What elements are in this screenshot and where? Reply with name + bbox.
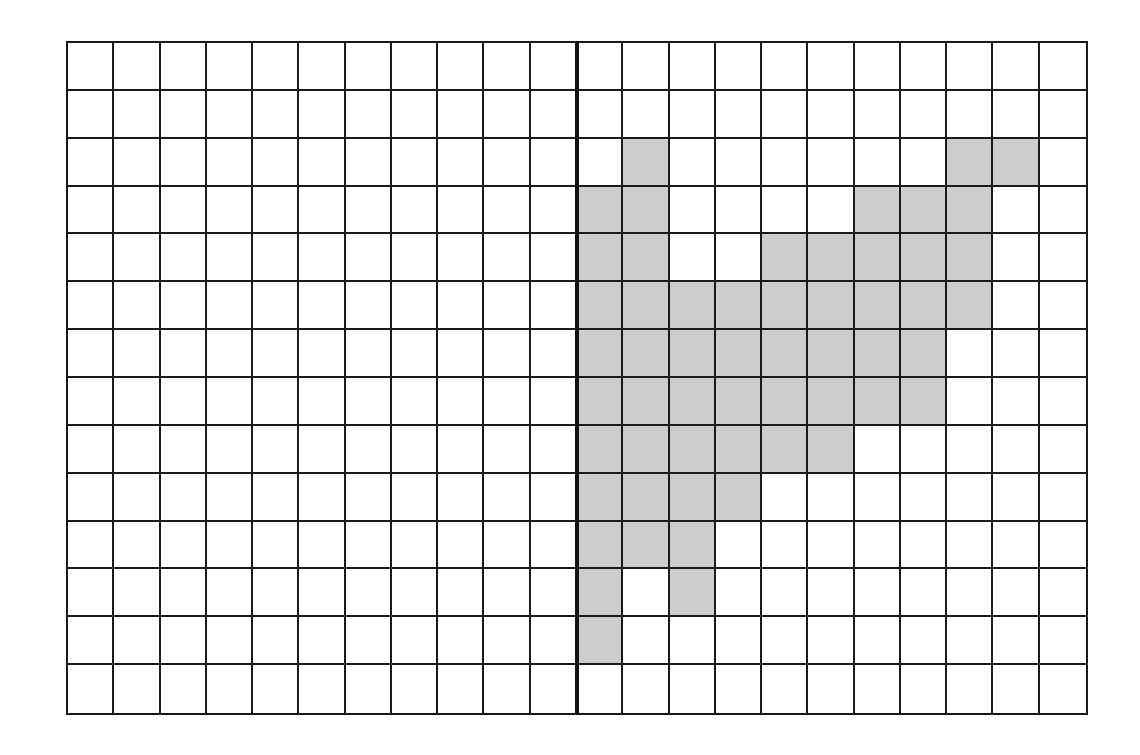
grid-cell xyxy=(299,282,345,330)
grid-cell xyxy=(577,43,623,91)
grid-cell xyxy=(993,43,1039,91)
grid-cell xyxy=(114,522,160,570)
grid-cell xyxy=(161,617,207,665)
grid-cell xyxy=(253,474,299,522)
grid-cell-shaded xyxy=(901,330,947,378)
grid-cell xyxy=(299,426,345,474)
grid-cell-shaded xyxy=(901,378,947,426)
grid-cell xyxy=(68,665,114,713)
grid-cell xyxy=(68,426,114,474)
grid-cell xyxy=(207,378,253,426)
grid-cell xyxy=(392,522,438,570)
grid-cell xyxy=(299,522,345,570)
grid-cell xyxy=(531,522,577,570)
grid-cell xyxy=(670,665,716,713)
grid-cell-shaded xyxy=(670,522,716,570)
grid-cell xyxy=(531,330,577,378)
grid-cell xyxy=(855,617,901,665)
grid-cell xyxy=(484,617,530,665)
grid-cell xyxy=(253,43,299,91)
grid-cell xyxy=(670,91,716,139)
grid-cell-shaded xyxy=(947,282,993,330)
grid-cell-shaded xyxy=(623,378,669,426)
grid-cell xyxy=(762,474,808,522)
grid-cell xyxy=(392,139,438,187)
grid-cell xyxy=(1040,522,1086,570)
grid-cell xyxy=(392,426,438,474)
grid-cell xyxy=(670,234,716,282)
grid-cell xyxy=(68,187,114,235)
grid-cell xyxy=(392,282,438,330)
grid-cell-shaded xyxy=(716,426,762,474)
grid-cell xyxy=(531,474,577,522)
grid-cell xyxy=(716,522,762,570)
grid-cell xyxy=(716,665,762,713)
grid-cell xyxy=(114,665,160,713)
grid-cell xyxy=(1040,234,1086,282)
grid-cell xyxy=(114,569,160,617)
grid-cell xyxy=(993,378,1039,426)
grid-cell xyxy=(531,282,577,330)
grid-cell-shaded xyxy=(577,187,623,235)
grid-cell-shaded xyxy=(947,187,993,235)
grid-cell xyxy=(114,43,160,91)
grid-cell xyxy=(1040,43,1086,91)
grid-cell xyxy=(901,569,947,617)
grid-cell xyxy=(1040,378,1086,426)
grid-cell xyxy=(993,522,1039,570)
grid-cell xyxy=(577,91,623,139)
grid-cell xyxy=(484,665,530,713)
grid-cell xyxy=(346,665,392,713)
grid-cell xyxy=(253,522,299,570)
grid-cell xyxy=(993,474,1039,522)
grid-cell xyxy=(993,187,1039,235)
grid-cell-shaded xyxy=(577,569,623,617)
grid-cell xyxy=(68,474,114,522)
grid-cell xyxy=(670,187,716,235)
grid-cell xyxy=(346,282,392,330)
grid-cell xyxy=(346,569,392,617)
grid-cell xyxy=(346,378,392,426)
grid-cell xyxy=(253,330,299,378)
grid-cell xyxy=(392,91,438,139)
grid-cell xyxy=(1040,91,1086,139)
grid-cell xyxy=(438,43,484,91)
grid-cell xyxy=(1040,426,1086,474)
grid-cell xyxy=(808,522,854,570)
grid-cell xyxy=(1040,617,1086,665)
grid-cell xyxy=(716,139,762,187)
grid-cell xyxy=(623,665,669,713)
grid-cell xyxy=(392,474,438,522)
grid-cell xyxy=(438,617,484,665)
grid-cell xyxy=(993,91,1039,139)
grid-cell-shaded xyxy=(577,378,623,426)
grid-cell xyxy=(762,43,808,91)
grid-cell xyxy=(531,139,577,187)
grid-cell xyxy=(207,282,253,330)
grid-cell xyxy=(716,187,762,235)
grid-cell xyxy=(577,139,623,187)
grid-cell xyxy=(253,234,299,282)
grid-cell-shaded xyxy=(577,282,623,330)
grid-cell xyxy=(253,378,299,426)
grid-cell xyxy=(993,569,1039,617)
grid-cell xyxy=(207,569,253,617)
grid-cell xyxy=(346,617,392,665)
grid-cell xyxy=(207,330,253,378)
grid-cell xyxy=(253,569,299,617)
grid-cell xyxy=(623,569,669,617)
grid-cell xyxy=(531,378,577,426)
grid-cell xyxy=(207,43,253,91)
grid-cell xyxy=(438,569,484,617)
grid-cell xyxy=(253,139,299,187)
grid-cell xyxy=(161,91,207,139)
grid-cell-shaded xyxy=(716,282,762,330)
grid-cell-shaded xyxy=(716,330,762,378)
grid-cell xyxy=(808,43,854,91)
grid-cell xyxy=(161,43,207,91)
grid-cell xyxy=(161,282,207,330)
grid-cell-shaded xyxy=(623,282,669,330)
grid-cell-shaded xyxy=(855,234,901,282)
grid-cell-shaded xyxy=(623,187,669,235)
grid-cell xyxy=(484,282,530,330)
